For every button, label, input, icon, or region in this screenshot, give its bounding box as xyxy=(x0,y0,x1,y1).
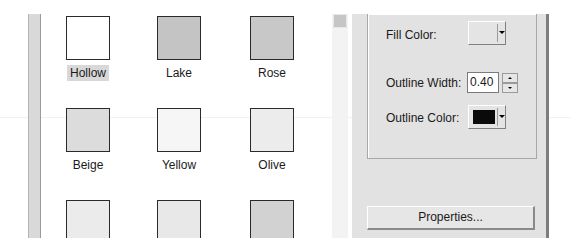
outline-color-dropdown[interactable] xyxy=(468,105,506,129)
swatch-lake[interactable] xyxy=(157,16,201,60)
swatch-olive[interactable] xyxy=(250,108,294,152)
swatch-yellow[interactable] xyxy=(157,108,201,152)
left-scrollbar[interactable] xyxy=(28,14,41,238)
scrollbar-thumb[interactable] xyxy=(333,14,347,28)
properties-button[interactable]: Properties... xyxy=(367,206,535,230)
swatch-row3-1[interactable] xyxy=(66,200,110,238)
fill-color-swatch xyxy=(473,26,495,40)
spin-down-button[interactable] xyxy=(502,83,518,93)
arrow-down-icon xyxy=(508,87,512,89)
swatch-label-yellow: Yellow xyxy=(139,158,219,172)
swatch-hollow[interactable] xyxy=(66,16,110,60)
dropdown-separator xyxy=(497,24,498,42)
outline-width-label: Outline Width: xyxy=(386,76,461,90)
swatch-label-olive: Olive xyxy=(232,158,312,172)
fill-color-dropdown[interactable] xyxy=(468,21,506,45)
swatch-label-rose: Rose xyxy=(232,66,312,80)
swatch-row3-3[interactable] xyxy=(250,200,294,238)
outline-color-swatch xyxy=(473,110,495,124)
arrow-up-icon xyxy=(508,77,512,79)
swatch-beige[interactable] xyxy=(66,108,110,152)
swatch-label-hollow: Hollow xyxy=(48,66,128,80)
outline-color-label: Outline Color: xyxy=(386,111,459,125)
swatch-label-lake: Lake xyxy=(139,66,219,80)
swatch-label-beige: Beige xyxy=(48,158,128,172)
swatch-row3-2[interactable] xyxy=(157,200,201,238)
chevron-down-icon xyxy=(499,31,505,34)
chevron-down-icon xyxy=(499,115,505,118)
dropdown-separator xyxy=(497,108,498,126)
palette-scrollbar[interactable] xyxy=(332,14,348,238)
spin-up-button[interactable] xyxy=(502,73,518,83)
fill-color-label: Fill Color: xyxy=(386,28,437,42)
outline-width-input[interactable]: 0.40 xyxy=(467,72,499,93)
swatch-rose[interactable] xyxy=(250,16,294,60)
